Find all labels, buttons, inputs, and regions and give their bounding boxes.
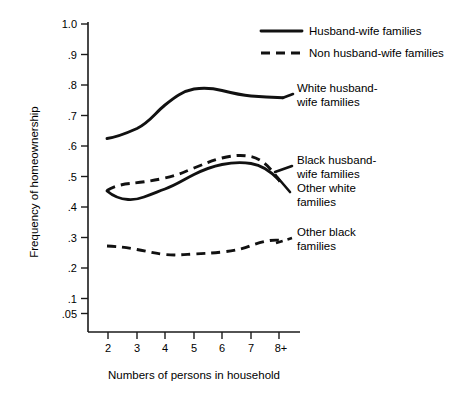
y-axis-ticks: [81, 24, 88, 314]
annotation-white-hw-line2: wife families: [296, 96, 360, 108]
y-tick-label: .1: [68, 293, 77, 305]
y-tick-label: 1.0: [62, 18, 77, 30]
annotation-black-hw-line1: Black husband-: [297, 154, 376, 166]
y-tick-label: .2: [68, 262, 77, 274]
x-tick-label: 5: [191, 342, 197, 354]
homeownership-line-chart: 1.0 .9 .8 .7 .6 .5 .4 .3 .2 .1 .05 2: [0, 0, 458, 395]
y-axis-title: Frequency of homeownership: [28, 106, 40, 258]
x-tick-label: 7: [248, 342, 254, 354]
annotation-other-white-line2: families: [297, 196, 336, 208]
chart-figure: 1.0 .9 .8 .7 .6 .5 .4 .3 .2 .1 .05 2: [0, 0, 458, 395]
x-tick-label: 4: [162, 342, 168, 354]
leader-line-other-white: [278, 178, 290, 192]
series-black-husband-wife: [107, 163, 279, 200]
y-tick-label: .5: [68, 171, 77, 183]
y-tick-label: .8: [68, 79, 77, 91]
x-tick-label: 3: [134, 342, 140, 354]
y-tick-label: .6: [68, 140, 77, 152]
x-tick-label: 2: [105, 342, 111, 354]
annotation-black-hw-line2: wife families: [296, 168, 360, 180]
annotation-other-white: Other white families: [278, 178, 356, 208]
x-tick-label: 8+: [275, 342, 288, 354]
annotation-other-black-line2: families: [297, 240, 336, 252]
legend-label-husband-wife: Husband-wife families: [309, 25, 422, 37]
legend-label-non-husband-wife: Non husband-wife families: [309, 47, 444, 59]
annotation-white-husband-wife: White husband- wife families: [283, 82, 378, 108]
leader-line-black-hw: [275, 166, 292, 172]
y-tick-label: .3: [68, 232, 77, 244]
annotation-other-white-line1: Other white: [297, 182, 356, 194]
y-tick-label: .05: [62, 308, 77, 320]
chart-legend: Husband-wife families Non husband-wife f…: [261, 25, 444, 59]
y-tick-label: .9: [68, 49, 77, 61]
y-tick-label: .7: [68, 110, 77, 122]
series-other-black: [107, 240, 281, 255]
x-axis-ticks: [108, 332, 279, 339]
y-tick-label: .4: [68, 201, 77, 213]
annotation-other-black: Other black families: [276, 226, 356, 252]
annotation-other-black-line1: Other black: [297, 226, 356, 238]
y-axis-tick-labels: 1.0 .9 .8 .7 .6 .5 .4 .3 .2 .1 .05: [62, 18, 77, 320]
series-white-husband-wife: [107, 88, 283, 138]
annotation-black-husband-wife: Black husband- wife families: [275, 154, 376, 180]
annotation-white-hw-line1: White husband-: [297, 82, 378, 94]
x-tick-label: 6: [219, 342, 225, 354]
x-axis-tick-labels: 2 3 4 5 6 7 8+: [105, 342, 287, 354]
x-axis-title: Numbers of persons in household: [108, 369, 280, 381]
leader-line-white-hw: [283, 94, 293, 98]
